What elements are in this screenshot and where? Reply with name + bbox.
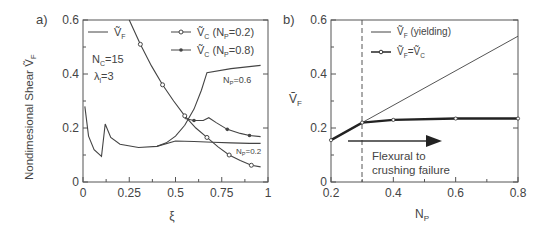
figure: a) Nondimesional Shear ṼF 00.20.40.600.2… — [0, 0, 546, 231]
panel-b-xlabel: NP — [415, 207, 429, 223]
y-tick-label: 0 — [72, 175, 79, 189]
series-line — [129, 20, 260, 167]
x-tick-label: 0.5 — [167, 186, 184, 200]
y-tick-label: 0.6 — [310, 13, 327, 27]
panel-a: a) Nondimesional Shear ṼF 00.20.40.600.2… — [23, 12, 272, 223]
annotation-np06: NP=0.6 — [223, 75, 251, 86]
x-tick-label: 0.25 — [118, 186, 142, 200]
annotation-lambda: λl=3 — [94, 70, 114, 84]
panel-a-xlabel: ξ — [169, 209, 175, 223]
panel-a-ylabel: Nondimesional Shear ṼF — [23, 54, 38, 180]
legend-vc-02: ṼC (NP=0.2) — [197, 26, 254, 40]
panel-b-label: b) — [283, 12, 295, 27]
x-tick-label: 0.4 — [385, 186, 402, 200]
x-tick-label: 1 — [265, 186, 272, 200]
y-tick-label: 0.6 — [62, 13, 79, 27]
legend-vf: ṼF — [114, 26, 126, 40]
annotation-np02: NP=0.2 — [236, 147, 262, 157]
x-tick-label: 0.6 — [447, 186, 464, 200]
y-tick-label: 0.4 — [62, 67, 79, 81]
panel-b-legend: ṼF (yielding) ṼF=ṼC — [371, 25, 451, 59]
legend-yielding: ṼF (yielding) — [397, 25, 451, 39]
y-tick-label: 0.2 — [62, 121, 79, 135]
annotation-nc: NC=15 — [92, 53, 124, 67]
x-tick-label: 0.2 — [323, 186, 340, 200]
annotation-flexural: Flexural to — [372, 150, 426, 162]
panel-a-label: a) — [36, 12, 48, 27]
panel-b-ylabel: ṼF — [289, 92, 302, 108]
y-tick-label: 0.2 — [310, 121, 327, 135]
annotation-crushing: crushing failure — [372, 164, 450, 176]
y-tick-label: 0.4 — [310, 67, 327, 81]
x-tick-label: 0.75 — [210, 186, 234, 200]
series-vf-vc — [331, 119, 518, 141]
panel-a-series — [85, 20, 261, 167]
legend-vc-08: ṼC (NP=0.8) — [197, 44, 254, 58]
x-tick-label: 0 — [80, 186, 87, 200]
legend-vf-vc: ṼF=ṼC — [397, 45, 425, 59]
panel-b: b) ṼF 00.20.40.60.20.40.60.8 Flexural to… — [283, 12, 527, 223]
panel-a-ticks: 00.20.40.600.250.50.751 — [62, 13, 271, 200]
svg-text:Nondimesional Shear ṼF: Nondimesional Shear ṼF — [23, 54, 38, 180]
x-tick-label: 0.8 — [510, 186, 527, 200]
